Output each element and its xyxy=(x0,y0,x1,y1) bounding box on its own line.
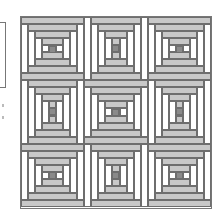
light-strip xyxy=(42,45,49,52)
medium-strip xyxy=(176,116,183,123)
center-square xyxy=(49,46,56,53)
light-strip xyxy=(204,151,211,200)
light-strip xyxy=(162,165,169,186)
medium-strip xyxy=(148,73,211,80)
medium-strip xyxy=(28,193,77,200)
medium-strip xyxy=(28,137,77,144)
medium-strip xyxy=(162,186,197,193)
light-strip xyxy=(120,38,127,59)
medium-strip xyxy=(49,101,56,108)
medium-strip xyxy=(162,31,197,38)
light-strip xyxy=(148,151,155,200)
medium-strip xyxy=(35,59,70,66)
medium-strip xyxy=(21,144,84,151)
medium-strip xyxy=(112,38,119,45)
medium-strip xyxy=(21,17,84,24)
light-strip xyxy=(204,24,211,73)
medium-strip xyxy=(91,200,140,207)
medium-strip xyxy=(105,186,126,193)
medium-strip xyxy=(35,31,70,38)
light-strip xyxy=(134,94,141,129)
cropped-text-mark xyxy=(2,104,4,107)
medium-strip xyxy=(112,52,119,59)
center-square xyxy=(176,46,183,53)
medium-strip xyxy=(176,101,183,108)
light-strip xyxy=(28,31,35,66)
light-strip xyxy=(84,144,91,207)
light-strip xyxy=(155,87,162,136)
quilt-block-horizontal xyxy=(21,17,84,80)
medium-strip xyxy=(98,151,133,158)
light-strip xyxy=(127,158,134,193)
medium-strip xyxy=(155,137,204,144)
medium-strip xyxy=(98,123,133,130)
medium-strip xyxy=(155,24,204,31)
light-strip xyxy=(28,87,35,136)
medium-strip xyxy=(98,193,133,200)
quilt-block-vertical xyxy=(148,80,211,143)
light-strip xyxy=(155,158,162,193)
light-strip xyxy=(56,101,63,122)
medium-strip xyxy=(105,116,126,123)
light-strip xyxy=(155,31,162,66)
light-strip xyxy=(127,101,134,122)
medium-strip xyxy=(162,59,197,66)
light-strip xyxy=(91,94,98,129)
medium-strip xyxy=(112,179,119,186)
light-strip xyxy=(63,94,70,129)
center-square xyxy=(112,45,119,52)
medium-strip xyxy=(42,94,63,101)
light-strip xyxy=(63,38,70,59)
medium-strip xyxy=(98,24,133,31)
light-strip xyxy=(84,17,91,80)
medium-strip xyxy=(169,123,190,130)
quilt-layout xyxy=(20,16,212,209)
light-strip xyxy=(98,31,105,66)
center-square xyxy=(49,172,56,179)
quilt-block-vertical xyxy=(21,80,84,143)
medium-strip xyxy=(105,59,126,66)
medium-strip xyxy=(28,151,77,158)
light-strip xyxy=(141,87,148,136)
medium-strip xyxy=(148,200,211,207)
medium-strip xyxy=(148,144,211,151)
light-strip xyxy=(190,165,197,186)
light-strip xyxy=(84,87,91,136)
medium-strip xyxy=(169,38,190,45)
medium-strip xyxy=(169,52,190,59)
light-strip xyxy=(42,101,49,122)
light-strip xyxy=(197,158,204,193)
medium-strip xyxy=(91,130,140,137)
light-strip xyxy=(120,108,127,115)
medium-strip xyxy=(42,38,63,45)
light-strip xyxy=(183,101,190,122)
medium-strip xyxy=(162,158,197,165)
light-strip xyxy=(35,38,42,59)
medium-strip xyxy=(155,80,204,87)
medium-strip xyxy=(84,80,147,87)
medium-strip xyxy=(91,73,140,80)
medium-strip xyxy=(155,66,204,73)
light-strip xyxy=(98,101,105,122)
light-strip xyxy=(21,151,28,200)
center-square xyxy=(112,172,119,179)
center-square xyxy=(49,108,56,115)
light-strip xyxy=(56,45,63,52)
medium-strip xyxy=(42,165,63,172)
medium-strip xyxy=(21,200,84,207)
light-strip xyxy=(77,80,84,143)
light-strip xyxy=(162,38,169,59)
light-strip xyxy=(105,165,112,186)
medium-strip xyxy=(91,87,140,94)
light-strip xyxy=(63,165,70,186)
light-strip xyxy=(148,24,155,73)
cropped-figure-edge xyxy=(0,22,6,88)
medium-strip xyxy=(105,31,126,38)
light-strip xyxy=(190,38,197,59)
medium-strip xyxy=(28,66,77,73)
medium-strip xyxy=(28,80,77,87)
medium-strip xyxy=(169,165,190,172)
light-strip xyxy=(197,87,204,136)
light-strip xyxy=(91,151,98,200)
medium-strip xyxy=(98,94,133,101)
